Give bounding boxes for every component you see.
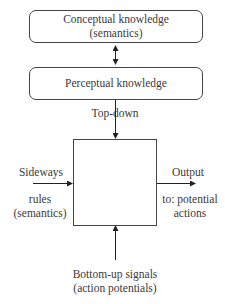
top-down-label: Top-down [85, 106, 145, 120]
bottom-up-sublabel: (action potentials) [60, 281, 170, 295]
sideways-label: Sideways [14, 165, 68, 179]
conceptual-knowledge-label: Conceptual knowledge [29, 12, 203, 26]
output-actions-label: actions [158, 206, 222, 220]
output-label: Output [166, 165, 210, 179]
central-processing-box [73, 139, 157, 226]
conceptual-knowledge-sublabel: (semantics) [29, 26, 203, 40]
sideways-semantics-label: (semantics) [8, 206, 72, 220]
bottom-up-label: Bottom-up signals [60, 267, 170, 281]
output-target-label: to: potential [158, 192, 222, 206]
sideways-rules-label: rules [10, 192, 70, 206]
perceptual-knowledge-label: Perceptual knowledge [29, 76, 203, 90]
